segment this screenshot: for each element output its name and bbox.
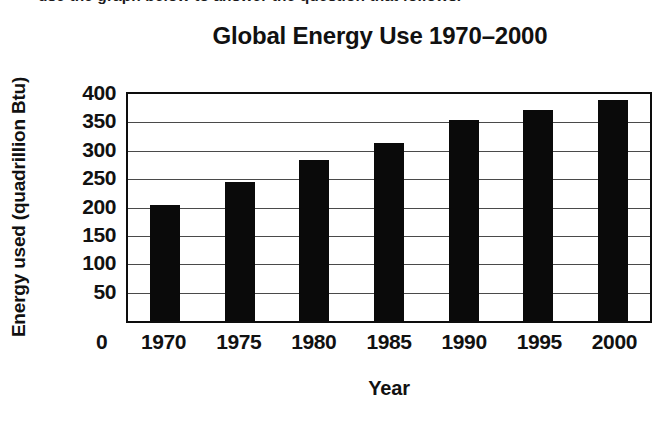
x-axis-tick-label: 1970	[126, 330, 201, 364]
y-axis-tick-label: 200	[82, 195, 116, 216]
y-axis-tick-label: 100	[82, 252, 116, 273]
bar-slot	[501, 94, 576, 321]
x-axis-tick-label: 1980	[276, 330, 351, 364]
y-axis-tick-label: 150	[82, 223, 116, 244]
x-axis-tick-label: 2000	[577, 330, 652, 364]
bar	[225, 182, 255, 321]
x-axis-tick-label: 1975	[201, 330, 276, 364]
y-axis-title: Energy used (quadrillion Btu)	[8, 57, 30, 357]
bar	[523, 110, 553, 321]
bar-slot	[128, 94, 203, 321]
y-axis-tick-label: 300	[82, 138, 116, 159]
chart-title: Global Energy Use 1970–2000	[100, 22, 660, 50]
bar-series	[128, 94, 650, 321]
y-axis-tick-label: 400	[82, 82, 116, 103]
y-axis-tick-label: 350	[82, 110, 116, 131]
origin-zero-label: 0	[96, 330, 108, 354]
x-axis-tick-label: 1985	[351, 330, 426, 364]
y-axis-tick-label: 250	[82, 167, 116, 188]
plot-area	[126, 92, 652, 323]
y-axis-tick-label: 50	[93, 280, 116, 301]
bar	[598, 100, 628, 321]
bar	[150, 205, 180, 321]
bar-slot	[203, 94, 278, 321]
bar	[374, 143, 404, 321]
bar	[449, 120, 479, 321]
bar-slot	[575, 94, 650, 321]
x-axis-title: Year	[126, 377, 652, 400]
bar-slot	[277, 94, 352, 321]
bar	[299, 160, 329, 321]
caption-fragment: use the graph below to answer the questi…	[38, 0, 638, 5]
x-axis-tick-labels: 1970197519801985199019952000	[126, 330, 652, 364]
y-axis-tick-labels: 40035030025020015010050	[56, 92, 124, 324]
x-axis-tick-label: 1995	[502, 330, 577, 364]
bar-slot	[352, 94, 427, 321]
x-axis-tick-label: 1990	[427, 330, 502, 364]
bar-slot	[426, 94, 501, 321]
